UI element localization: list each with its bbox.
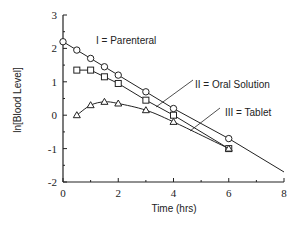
circle-marker [170, 105, 176, 111]
square-marker [74, 67, 80, 73]
circle-marker [115, 72, 121, 78]
x-tick-label: 4 [171, 187, 177, 199]
series-line [77, 102, 229, 149]
circle-marker [74, 47, 80, 53]
y-tick-label: 0 [52, 109, 58, 121]
y-tick-label: 2 [52, 42, 58, 54]
x-axis-title: Time (hrs) [151, 203, 196, 214]
x-tick-label: 6 [226, 187, 232, 199]
series-triangle [73, 98, 232, 151]
x-tick-label: 0 [60, 187, 66, 199]
y-axis-title: ln[Blood Level] [12, 67, 23, 133]
square-marker [88, 67, 94, 73]
triangle-marker [87, 102, 94, 108]
square-marker [115, 80, 121, 86]
pharmacokinetics-chart: 02468-2-10123 Time (hrs) ln[Blood Level]… [0, 0, 298, 229]
leader-line-oral-solution [156, 80, 193, 107]
x-tick-label: 2 [116, 187, 122, 199]
legend-tablet: III = Tablet [225, 107, 271, 118]
circle-marker [101, 64, 107, 70]
legend-parenteral: I = Parenteral [96, 35, 156, 46]
y-tick-label: -1 [48, 143, 57, 155]
circle-marker [87, 55, 93, 61]
triangle-marker [73, 112, 80, 118]
y-tick-label: 3 [52, 9, 58, 21]
axis-tick-labels: 02468-2-10123 [48, 9, 287, 199]
legend-annotations: I = Parenteral II = Oral Solution III = … [96, 35, 271, 131]
square-marker [171, 112, 177, 118]
data-series [60, 39, 284, 172]
series-circle [60, 39, 284, 172]
square-marker [143, 97, 149, 103]
triangle-marker [170, 118, 177, 124]
x-tick-label: 8 [281, 187, 287, 199]
circle-marker [60, 39, 66, 45]
square-marker [101, 74, 107, 80]
y-tick-label: 1 [52, 76, 58, 88]
legend-oral-solution: II = Oral Solution [195, 79, 270, 90]
y-tick-label: -2 [48, 176, 57, 188]
circle-marker [143, 89, 149, 95]
circle-marker [226, 135, 232, 141]
